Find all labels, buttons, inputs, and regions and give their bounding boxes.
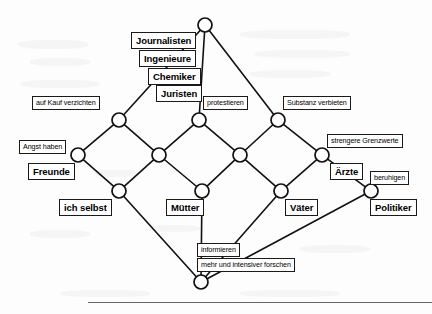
lattice-node[interactable]	[71, 148, 85, 162]
node-label-muetter: Mütter	[166, 199, 204, 216]
lattice-edge	[207, 160, 235, 186]
node-label-ich-selbst: ich selbst	[59, 199, 112, 216]
lattice-edge	[83, 160, 113, 187]
lattice-edge	[124, 125, 153, 151]
lattice-node[interactable]	[195, 184, 209, 198]
node-label-journalisten: Journalisten	[131, 32, 196, 49]
node-label-auf-kauf-verzichten: auf Kauf verzichten	[32, 96, 100, 110]
node-label-informieren: informieren	[197, 243, 240, 257]
lattice-node[interactable]	[112, 184, 126, 198]
page-rule	[88, 302, 432, 303]
node-label-vaeter: Väter	[285, 199, 318, 216]
lattice-node[interactable]	[364, 184, 378, 198]
lattice-node[interactable]	[192, 113, 206, 127]
node-label-chemiker: Chemiker	[148, 68, 201, 85]
node-label-strengere-grenzwerte: strengere Grenzwerte	[327, 134, 403, 148]
node-label-ingenieure: Ingenieure	[139, 50, 196, 67]
lattice-edge	[83, 125, 113, 151]
node-label-angst-haben: Angst haben	[19, 140, 66, 154]
lattice-edge	[245, 125, 273, 151]
lattice-node[interactable]	[194, 275, 208, 289]
node-label-aerzte: Ärzte	[330, 163, 363, 180]
lattice-edge	[164, 159, 196, 186]
lattice-node[interactable]	[274, 184, 288, 198]
node-label-freunde: Freunde	[28, 163, 75, 180]
lattice-edge	[124, 160, 154, 187]
lattice-node[interactable]	[315, 148, 329, 162]
lattice-node[interactable]	[233, 148, 247, 162]
lattice-edge	[286, 160, 316, 187]
node-label-juristen: Juristen	[156, 85, 202, 102]
lattice-node[interactable]	[152, 148, 166, 162]
lattice-node[interactable]	[198, 18, 212, 32]
node-label-politiker: Politiker	[370, 199, 417, 216]
node-label-substanz-verbieten: Substanz verbieten	[283, 96, 351, 110]
lattice-edge	[245, 160, 275, 187]
lattice-node[interactable]	[112, 113, 126, 127]
lattice-edge	[204, 125, 234, 151]
node-label-protestieren: protestieren	[203, 96, 248, 110]
lattice-edge	[164, 125, 193, 151]
concept-lattice-diagram: Journalisten Ingenieure Chemiker Juriste…	[0, 0, 432, 314]
lattice-node[interactable]	[271, 113, 285, 127]
lattice-edge	[283, 124, 316, 150]
node-label-mehr-und-intensiver-forschen: mehr und intensiver forschen	[197, 258, 295, 272]
node-label-beruhigen: beruhigen	[370, 171, 409, 185]
